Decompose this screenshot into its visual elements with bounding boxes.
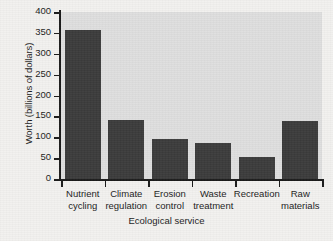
y-axis-tick-label: 350	[35, 26, 51, 37]
bar	[195, 143, 231, 179]
bar	[108, 120, 144, 179]
x-axis-title: Ecological service	[0, 215, 333, 226]
y-axis-title: Worth (billions of dollars)	[23, 14, 34, 174]
y-axis-tick-label: 50	[40, 151, 51, 162]
x-axis-tick-mark	[235, 181, 237, 187]
y-axis-tick-label: 100	[35, 130, 51, 141]
y-axis-tick-label: 400	[35, 5, 51, 16]
y-axis-tick-label: 250	[35, 68, 51, 79]
y-axis-tick-label: 200	[35, 89, 51, 100]
x-axis-tick-mark	[105, 181, 107, 187]
x-axis-category-label-line: materials	[260, 200, 333, 212]
x-axis-tick-mark	[322, 181, 324, 187]
x-axis-category-label-line: treatment	[173, 200, 253, 212]
x-axis-tick-mark	[148, 181, 150, 187]
x-axis-tick-mark	[61, 181, 63, 187]
bar	[239, 157, 275, 179]
y-axis-tick-label: 0	[46, 172, 51, 183]
x-axis-tick-mark	[279, 181, 281, 187]
bar	[152, 139, 188, 179]
y-axis-tick-label: 150	[35, 109, 51, 120]
bar	[282, 121, 318, 179]
bar	[65, 30, 101, 179]
x-axis-category-label: Rawmaterials	[260, 188, 333, 211]
y-axis-tick-label: 300	[35, 47, 51, 58]
bars-layer	[61, 12, 322, 179]
x-axis-tick-mark	[192, 181, 194, 187]
x-axis-category-label-line: Raw	[260, 188, 333, 200]
bar-chart-figure: Worth (billions of dollars) 050100150200…	[0, 0, 333, 241]
